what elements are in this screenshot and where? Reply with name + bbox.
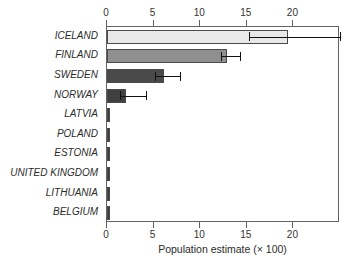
category-axis-labels: ICELANDFINLANDSWEDENNORWAYLATVIAPOLANDES…	[0, 26, 102, 222]
category-label: POLAND	[0, 128, 102, 139]
tick-label: 10	[187, 229, 211, 240]
error-bar-line	[155, 76, 179, 77]
bottom-axis-tick-labels: 05101520	[106, 229, 339, 241]
tick-label: 15	[234, 229, 258, 240]
bar	[107, 49, 227, 63]
bar	[107, 108, 110, 122]
tick-mark	[292, 222, 293, 228]
error-bar-cap	[120, 91, 121, 100]
tick-mark	[153, 222, 154, 228]
category-label: SWEDEN	[0, 69, 102, 80]
tick-mark	[199, 222, 200, 228]
category-label: FINLAND	[0, 49, 102, 60]
bar	[107, 128, 110, 142]
category-label: LITHUANIA	[0, 187, 102, 198]
category-label: NORWAY	[0, 89, 102, 100]
population-estimate-bar-chart: 05101520 ICELANDFINLANDSWEDENNORWAYLATVI…	[0, 0, 355, 264]
category-label: LATVIA	[0, 108, 102, 119]
category-label: ESTONIA	[0, 147, 102, 158]
bar	[107, 167, 110, 181]
bar	[107, 147, 110, 161]
bar	[107, 206, 110, 220]
tick-mark	[246, 222, 247, 228]
tick-label: 20	[280, 229, 304, 240]
tick-label: 0	[94, 7, 118, 18]
error-bar-cap	[180, 72, 181, 81]
tick-label: 20	[280, 7, 304, 18]
error-bar-cap	[146, 91, 147, 100]
x-axis-title: Population estimate (× 100)	[106, 243, 339, 255]
top-axis-tick-labels: 05101520	[106, 7, 339, 19]
error-bar-cap	[221, 52, 222, 61]
tick-label: 0	[94, 229, 118, 240]
error-bar-line	[249, 37, 340, 38]
tick-mark	[106, 222, 107, 228]
bottom-axis-ticks	[106, 222, 339, 228]
plot-area	[106, 26, 339, 222]
error-bar-line	[120, 96, 146, 97]
tick-label: 5	[141, 229, 165, 240]
bar	[107, 187, 110, 201]
error-bar-line	[221, 56, 241, 57]
tick-label: 10	[187, 7, 211, 18]
tick-label: 5	[141, 7, 165, 18]
error-bar-cap	[155, 72, 156, 81]
category-label: ICELAND	[0, 30, 102, 41]
category-label: UNITED KINGDOM	[0, 167, 102, 178]
error-bar-cap	[340, 32, 341, 41]
category-label: BELGIUM	[0, 206, 102, 217]
error-bar-cap	[240, 52, 241, 61]
error-bar-cap	[249, 32, 250, 41]
tick-label: 15	[234, 7, 258, 18]
